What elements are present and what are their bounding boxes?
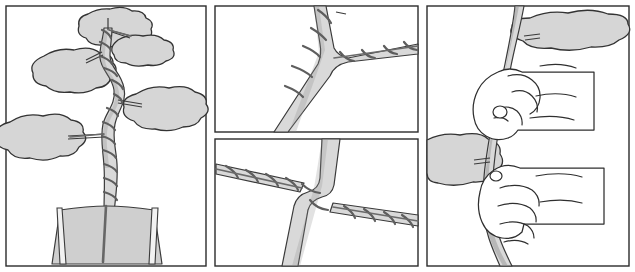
panel-branch-junction-lower: [215, 139, 418, 266]
panel-hands: [427, 6, 630, 266]
lower-hand: [478, 165, 604, 244]
training-pot: [52, 206, 162, 264]
trunk-two-branches: [216, 139, 418, 266]
trunk-and-branch: [274, 6, 418, 132]
bonsai-wiring-figure: [0, 0, 635, 272]
upper-hand: [473, 64, 594, 139]
panel-branch-junction-upper: [215, 6, 418, 132]
panel-whole-tree: [0, 6, 208, 266]
